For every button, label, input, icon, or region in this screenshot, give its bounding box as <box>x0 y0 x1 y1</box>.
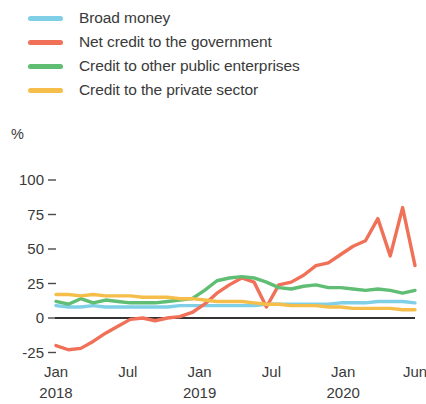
x-axis-tick-label-month: Jan <box>331 363 355 380</box>
y-axis-tick-label: 25 <box>27 275 44 292</box>
chart-series-group <box>56 208 415 350</box>
x-axis-tick-label-month: Jul <box>262 363 281 380</box>
y-axis-tick-label: 75 <box>27 206 44 223</box>
x-axis-tick-label-year: 2020 <box>327 384 360 401</box>
y-axis-tick-label: 100 <box>19 171 44 188</box>
x-axis-tick-label-month: Jan <box>188 363 212 380</box>
x-axis-tick-label-year: 2018 <box>39 384 72 401</box>
x-axis-ticks: Jan2018JulJan2019JulJan2020Jun <box>39 363 426 401</box>
y-axis-tick-label: -25 <box>22 344 44 361</box>
x-axis-tick-label-month: Jul <box>118 363 137 380</box>
x-axis-tick-label-month: Jan <box>44 363 68 380</box>
y-axis-tick-label: 50 <box>27 240 44 257</box>
y-axis-tick-label: 0 <box>36 309 44 326</box>
x-axis-tick-label-year: 2019 <box>183 384 216 401</box>
x-axis-tick-label-month: Jun <box>403 363 426 380</box>
chart-plot-area: 1007550250-25 Jan2018JulJan2019JulJan202… <box>0 0 426 404</box>
chart-figure: Broad money Net credit to the government… <box>0 0 426 404</box>
y-axis-ticks: 1007550250-25 <box>19 171 56 361</box>
